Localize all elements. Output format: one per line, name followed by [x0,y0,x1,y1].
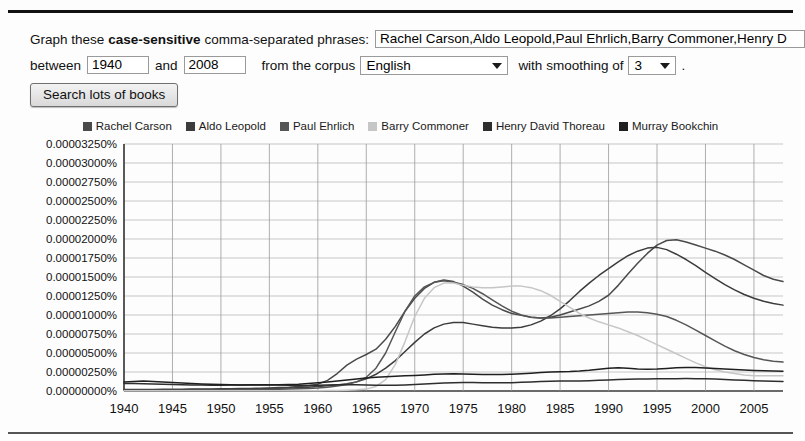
end-year-input[interactable] [184,56,246,74]
comma-separated-label: comma-separated phrases: [205,32,369,47]
smoothing-select[interactable]: 3 [628,56,676,75]
legend-label: Aldo Leopold [199,120,266,132]
legend-label: Paul Ehrlich [293,120,354,132]
start-year-input[interactable] [87,56,149,74]
and-label: and [155,58,178,73]
legend-swatch-icon [619,122,628,131]
x-axis-tick-label: 1945 [158,401,187,416]
ngram-chart: 0.00000000%0.00000250%0.00000500%0.00000… [0,138,801,428]
legend-swatch-icon [280,122,289,131]
legend-item[interactable]: Henry David Thoreau [483,120,605,132]
y-axis-tick-label: 0.00002000% [46,233,117,245]
bottom-divider [8,432,793,434]
corpus-select-value: English [366,56,410,75]
smoothing-label: with smoothing of [518,58,623,73]
x-axis-tick-label: 1985 [546,401,575,416]
x-axis-tick-label: 1940 [110,401,139,416]
x-axis-tick-label: 1965 [352,401,381,416]
x-axis-tick-label: 2005 [739,401,768,416]
chart-legend: Rachel CarsonAldo LeopoldPaul EhrlichBar… [0,120,801,132]
legend-item[interactable]: Murray Bookchin [619,120,718,132]
x-axis-tick-label: 1990 [594,401,623,416]
x-axis-tick-label: 1955 [255,401,284,416]
legend-label: Henry David Thoreau [496,120,605,132]
y-axis-tick-label: 0.00000000% [46,385,117,397]
chart-line-series[interactable] [124,283,783,391]
y-axis-tick-label: 0.00000750% [46,328,117,340]
y-axis-tick-label: 0.00001500% [46,271,117,283]
legend-label: Barry Commoner [381,120,469,132]
legend-item[interactable]: Rachel Carson [83,120,172,132]
chart-line-series[interactable] [124,247,783,389]
y-axis-tick-label: 0.00002250% [46,214,117,226]
legend-swatch-icon [83,122,92,131]
y-axis-tick-label: 0.00001000% [46,309,117,321]
legend-label: Rachel Carson [96,120,172,132]
y-axis-tick-label: 0.00003000% [46,157,117,169]
y-axis-tick-label: 0.00002500% [46,195,117,207]
graph-these-label: Graph these [30,32,104,47]
corpus-label: from the corpus [262,58,356,73]
y-axis-tick-label: 0.00000250% [46,366,117,378]
trailing-period: . [681,58,685,73]
case-sensitive-label: case-sensitive [108,32,200,47]
x-axis-tick-label: 1995 [643,401,672,416]
legend-item[interactable]: Aldo Leopold [186,120,266,132]
phrases-input[interactable] [375,30,805,48]
legend-swatch-icon [483,122,492,131]
legend-swatch-icon [186,122,195,131]
x-axis-tick-label: 1980 [497,401,526,416]
x-axis-tick-label: 1960 [303,401,332,416]
x-axis-tick-label: 1975 [449,401,478,416]
y-axis-tick-label: 0.00001250% [46,290,117,302]
search-row: Search lots of books [0,78,801,107]
chevron-down-icon [492,63,502,69]
chevron-down-icon [660,63,670,69]
y-axis-tick-label: 0.00001750% [46,252,117,264]
y-axis-tick-label: 0.00003250% [46,138,117,150]
x-axis-tick-label: 1950 [206,401,235,416]
y-axis-tick-label: 0.00000500% [46,347,117,359]
top-divider [8,10,793,13]
x-axis-tick-label: 2000 [691,401,720,416]
y-axis-tick-label: 0.00002750% [46,176,117,188]
options-row: between and from the corpus English with… [0,52,801,78]
chart-svg: 0.00000000%0.00000250%0.00000500%0.00000… [0,138,801,428]
query-form: Graph these case-sensitive comma-separat… [0,26,801,107]
between-label: between [30,58,81,73]
legend-swatch-icon [368,122,377,131]
legend-item[interactable]: Paul Ehrlich [280,120,354,132]
x-axis-tick-label: 1970 [400,401,429,416]
search-button[interactable]: Search lots of books [30,83,178,107]
legend-label: Murray Bookchin [632,120,718,132]
smoothing-select-value: 3 [634,56,642,75]
corpus-select[interactable]: English [360,56,508,75]
phrases-row: Graph these case-sensitive comma-separat… [0,26,801,52]
legend-item[interactable]: Barry Commoner [368,120,469,132]
